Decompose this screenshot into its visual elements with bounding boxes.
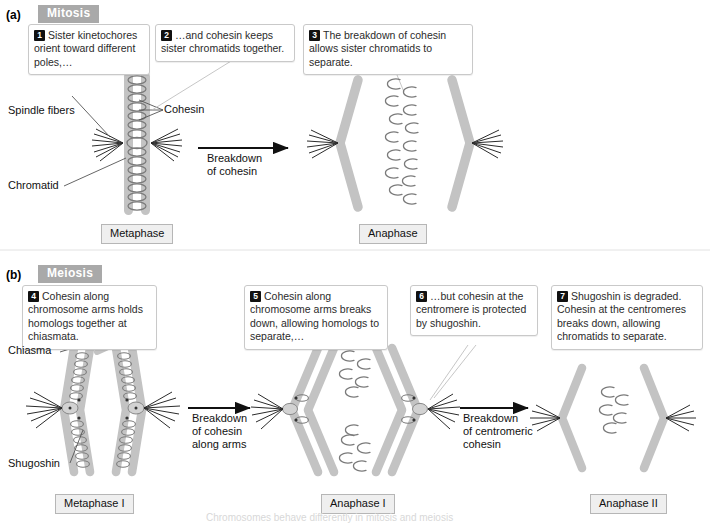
callout-number: 2 bbox=[161, 30, 172, 41]
metaphase-i-chromosomes bbox=[62, 347, 144, 472]
section-tag-mitosis: Mitosis bbox=[38, 5, 99, 23]
section-tag-meiosis: Meiosis bbox=[38, 265, 102, 283]
label-chromatid: Chromatid bbox=[8, 179, 59, 191]
callout-text: …but cohesin at the centromere is protec… bbox=[416, 290, 526, 329]
callout-number: 5 bbox=[250, 291, 261, 302]
arrow-caption-line-1: Breakdown bbox=[207, 152, 262, 165]
phase-anaphase-ii: Anaphase II bbox=[590, 494, 667, 514]
callout-text: …and cohesin keeps sister chromatids tog… bbox=[161, 29, 284, 54]
arrow-caption-line-3: along arms bbox=[192, 438, 247, 451]
anaphase-ii-chromosomes bbox=[562, 368, 664, 468]
callout-text: The breakdown of cohesin allows sister c… bbox=[309, 29, 446, 68]
phase-anaphase: Anaphase bbox=[359, 224, 427, 244]
spindle-fibers-anaphase-i-right bbox=[428, 394, 460, 429]
phase-metaphase-i: Metaphase I bbox=[55, 494, 134, 514]
anaphase-chromosomes bbox=[340, 79, 470, 207]
callout-number: 6 bbox=[416, 291, 427, 302]
callout-5: 5Cohesin along chromosome arms breaks do… bbox=[244, 285, 388, 350]
arrow-caption-line-3: cohesin bbox=[463, 438, 533, 451]
centromeric-cohesin-anaphase-i bbox=[283, 395, 428, 423]
callout-1: 1Sister kinetochores orient toward diffe… bbox=[28, 24, 150, 75]
callout-2: 2…and cohesin keeps sister chromatids to… bbox=[155, 24, 295, 62]
spindle-fibers-metaphase-right bbox=[151, 129, 182, 161]
arrow-caption-line-1: Breakdown bbox=[463, 412, 533, 425]
spindle-fibers-metaphase-left bbox=[92, 129, 123, 161]
phase-anaphase-i: Anaphase I bbox=[321, 494, 395, 514]
metaphase-chromosome bbox=[124, 72, 150, 215]
callout-text: Sister kinetochores orient toward differ… bbox=[34, 29, 137, 68]
spindle-fibers-anaphase-i-left bbox=[251, 394, 283, 429]
callout-7: 7Shugoshin is degraded. Cohesin at the c… bbox=[551, 285, 703, 350]
callout-text: Shugoshin is degraded. Cohesin at the ce… bbox=[557, 290, 686, 342]
callout-number: 3 bbox=[309, 30, 320, 41]
shugoshin-marks-metaphase-i bbox=[62, 398, 144, 419]
callout-number: 7 bbox=[557, 291, 568, 302]
arrow-caption-line-1: Breakdown bbox=[192, 412, 247, 425]
callout-3: 3The breakdown of cohesin allows sister … bbox=[303, 24, 473, 75]
arrow-caption-line-2: of centromeric bbox=[463, 425, 533, 438]
figure-bottom-caption: Chromosomes behave differently in mitosi… bbox=[206, 512, 453, 523]
label-cohesin: Cohesin bbox=[164, 103, 204, 115]
spindle-fibers-anaphase-ii-right bbox=[666, 405, 696, 431]
arrow-caption-line-2: of cohesin bbox=[192, 425, 247, 438]
anaphase-i-chromosomes bbox=[283, 348, 428, 472]
callout-text: Cohesin along chromosome arms holds homo… bbox=[28, 290, 143, 342]
callout-6: 6…but cohesin at the centromere is prote… bbox=[410, 285, 538, 336]
callout-number: 4 bbox=[28, 291, 39, 302]
spindle-fibers-anaphase-left bbox=[307, 130, 338, 158]
callout-number: 1 bbox=[34, 30, 45, 41]
spindle-fibers-metaphase-i-left bbox=[26, 392, 62, 428]
label-shugoshin: Shugoshin bbox=[8, 457, 60, 469]
label-spindle-fibers: Spindle fibers bbox=[8, 104, 75, 116]
callout-4: 4Cohesin along chromosome arms holds hom… bbox=[22, 285, 157, 350]
label-chiasma: Chiasma bbox=[8, 344, 51, 356]
spindle-fibers-anaphase-right bbox=[472, 130, 503, 158]
spindle-fibers-metaphase-i-right bbox=[144, 392, 180, 428]
panel-letter-b: (b) bbox=[6, 268, 21, 282]
spindle-fibers-anaphase-ii-left bbox=[530, 405, 560, 431]
callout-text: Cohesin along chromosome arms breaks dow… bbox=[250, 290, 379, 342]
arrow-caption-mitosis: Breakdown of cohesin bbox=[207, 152, 262, 178]
phase-metaphase: Metaphase bbox=[101, 224, 173, 244]
arrow-caption-meiosis-1: Breakdown of cohesin along arms bbox=[192, 412, 247, 451]
arrow-caption-line-2: of cohesin bbox=[207, 165, 262, 178]
arrow-caption-meiosis-2: Breakdown of centromeric cohesin bbox=[463, 412, 533, 451]
panel-letter-a: (a) bbox=[6, 8, 21, 22]
